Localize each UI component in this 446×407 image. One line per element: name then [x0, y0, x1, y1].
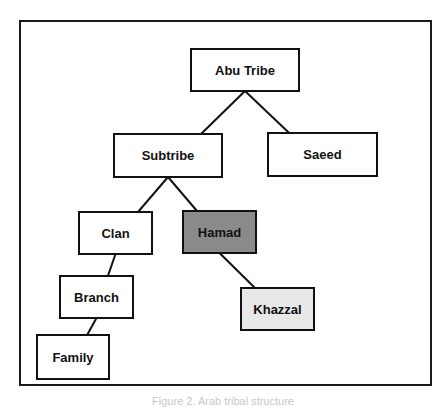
node-family: Family	[36, 334, 110, 380]
node-hamad: Hamad	[182, 210, 257, 254]
edge-clan-branch	[108, 254, 116, 276]
node-branch: Branch	[59, 275, 134, 319]
edge-abu_tribe-saeed	[245, 91, 289, 133]
edge-hamad-khazzal	[220, 253, 256, 288]
node-subtribe: Subtribe	[113, 133, 223, 178]
node-clan: Clan	[78, 211, 153, 255]
edge-branch-family	[87, 318, 96, 335]
edge-subtribe-clan	[138, 177, 168, 212]
node-khazzal: Khazzal	[240, 287, 315, 331]
edge-subtribe-hamad	[168, 177, 197, 211]
figure-caption: Figure 2. Arab tribal structure	[0, 395, 446, 407]
node-saeed: Saeed	[267, 132, 378, 177]
node-abu-tribe: Abu Tribe	[190, 48, 300, 92]
edge-abu_tribe-subtribe	[201, 91, 245, 134]
